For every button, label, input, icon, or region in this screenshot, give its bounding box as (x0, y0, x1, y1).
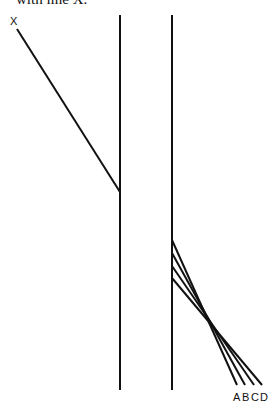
line-x (17, 29, 120, 192)
label-c: C (251, 391, 259, 403)
label-d: D (260, 391, 268, 403)
poggendorff-diagram: X A B C D (0, 0, 278, 405)
label-b: B (242, 391, 249, 403)
label-a: A (233, 391, 241, 403)
line-x-label: X (10, 15, 18, 27)
line-d (172, 278, 262, 385)
